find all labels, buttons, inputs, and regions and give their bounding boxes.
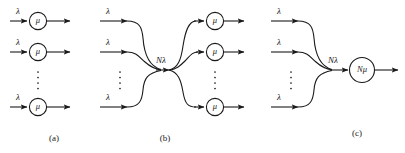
label-service-rate-a2: μ <box>35 46 40 56</box>
label-service-rate-b2: μ <box>212 46 217 56</box>
label-arrival-rate-a1: λ <box>15 6 20 16</box>
merge-curve-c1 <box>298 21 332 70</box>
panel-b-inputs: λ λ λ Nλ <box>100 6 169 107</box>
panel-b-outputs: μ μ μ <box>169 12 244 115</box>
queueing-network-figure: λ μ λ μ λ <box>0 0 405 153</box>
label-arrival-rate-c1: λ <box>276 6 281 16</box>
label-service-rate-a3: μ <box>35 101 40 111</box>
panel-a-row-3: λ μ <box>10 92 70 116</box>
panel-c: λ λ λ Nλ Nμ (c) <box>271 6 398 138</box>
label-arrival-rate-b3: λ <box>105 92 110 102</box>
label-service-rate-b1: μ <box>212 15 217 25</box>
split-curve-b1 <box>169 21 196 70</box>
label-aggregate-arrival-b: Nλ <box>155 55 166 65</box>
label-arrival-rate-c3: λ <box>276 92 281 102</box>
panel-c-input-ellipsis <box>290 71 292 89</box>
panel-c-inputs: λ λ λ Nλ <box>271 6 348 107</box>
label-arrival-rate-b2: λ <box>105 37 110 47</box>
panel-a-row-2: λ μ <box>10 37 70 61</box>
panel-b-input-ellipsis <box>119 71 121 89</box>
label-arrival-rate-c2: λ <box>276 37 281 47</box>
merge-curve-c3 <box>298 71 332 108</box>
caption-panel-c: (c) <box>352 128 362 138</box>
label-arrival-rate-b1: λ <box>105 6 110 16</box>
label-service-rate-b3: μ <box>212 101 217 111</box>
panel-b: λ λ λ Nλ <box>100 6 244 143</box>
label-aggregate-service-rate-c: Nμ <box>356 64 367 74</box>
panel-a-row-1: λ μ <box>10 6 70 30</box>
split-curve-b3 <box>169 70 196 107</box>
panel-a-ellipsis <box>37 71 39 89</box>
label-arrival-rate-a2: λ <box>15 37 20 47</box>
label-arrival-rate-a3: λ <box>15 92 20 102</box>
merge-curve-b3 <box>127 71 161 108</box>
caption-panel-a: (a) <box>49 133 59 143</box>
panel-b-output-ellipsis <box>214 71 216 89</box>
label-service-rate-a1: μ <box>35 15 40 25</box>
caption-panel-b: (b) <box>160 133 171 143</box>
label-aggregate-arrival-c: Nλ <box>327 55 338 65</box>
split-curve-b2 <box>169 52 198 70</box>
panel-a: λ μ λ μ λ <box>10 6 70 143</box>
figure-canvas: λ μ λ μ λ <box>0 0 405 153</box>
